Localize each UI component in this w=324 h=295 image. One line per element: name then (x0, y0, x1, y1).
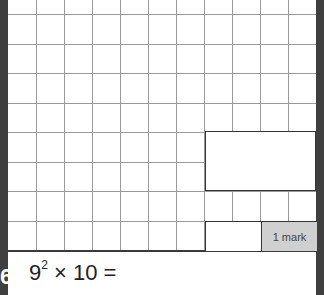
question-number: 6 (0, 262, 8, 292)
grid-vertical-line (260, 0, 261, 251)
grid-horizontal-line (8, 44, 316, 45)
grid-vertical-line (92, 0, 93, 251)
mark-label: 1 mark (262, 222, 317, 251)
mark-row: 1 mark (205, 221, 316, 251)
mark-blank-cell (206, 222, 262, 251)
grid-vertical-line (36, 0, 37, 251)
grid-vertical-line (64, 0, 65, 251)
grid-vertical-line (288, 0, 289, 251)
grid-horizontal-line (8, 14, 316, 15)
working-grid (8, 0, 316, 251)
grid-horizontal-line (8, 191, 316, 192)
left-margin-bar (0, 0, 8, 295)
question-base: 9 (29, 260, 41, 285)
grid-horizontal-line (8, 73, 316, 74)
question-exponent: 2 (41, 258, 48, 272)
grid-vertical-line (204, 0, 205, 251)
grid-horizontal-line (8, 103, 316, 104)
question-text: 92 × 10 = (29, 260, 116, 286)
question-rest: × 10 = (48, 260, 117, 285)
right-margin-bar (316, 0, 324, 295)
grid-vertical-line (176, 0, 177, 251)
answer-box[interactable] (205, 131, 316, 191)
grid-vertical-line (120, 0, 121, 251)
grid-vertical-line (148, 0, 149, 251)
grid-vertical-line (232, 0, 233, 251)
